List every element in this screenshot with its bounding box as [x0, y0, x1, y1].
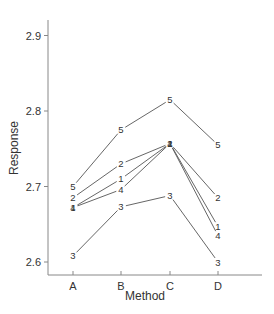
line-chart: 2.62.72.82.9 ABCD Method Response 555522…: [0, 0, 274, 314]
point-label: 2: [118, 158, 123, 169]
series-segment: [173, 147, 214, 194]
series-segment: [174, 103, 215, 141]
y-tick-label: 2.6: [26, 256, 41, 268]
point-label: 4: [167, 138, 172, 149]
point-label: 3: [167, 190, 172, 201]
series-segment: [125, 146, 166, 176]
y-axis-label: Response: [7, 121, 21, 175]
series-segment: [173, 200, 215, 258]
series-segment: [125, 102, 165, 127]
x-tick-label: A: [69, 280, 77, 292]
point-label: 3: [118, 201, 123, 212]
point-label: 5: [118, 124, 123, 135]
point-label: 5: [167, 94, 172, 105]
y-tick-label: 2.9: [26, 30, 41, 42]
point-label: 4: [118, 184, 123, 195]
series-5: 5555: [70, 94, 220, 192]
series-1: 1111: [70, 138, 220, 232]
series-segment: [172, 148, 215, 231]
y-tick-label: 2.8: [26, 105, 41, 117]
x-tick-label: C: [166, 280, 174, 292]
x-axis-label: Method: [125, 289, 165, 303]
point-label: 5: [215, 139, 220, 150]
series-segment: [173, 148, 216, 222]
point-label: 1: [118, 173, 123, 184]
series-segment: [76, 210, 117, 252]
point-label: 5: [70, 181, 75, 192]
point-label: 4: [70, 202, 75, 213]
point-label: 3: [215, 257, 220, 268]
series-segment: [126, 197, 165, 206]
series-segment: [125, 147, 167, 186]
series-2: 2222: [70, 138, 220, 203]
point-label: 2: [215, 192, 220, 203]
y-axis: 2.62.72.82.9: [26, 20, 48, 275]
series-segment: [76, 134, 118, 183]
x-tick-label: B: [117, 280, 124, 292]
series-group: 55552222111144443333: [70, 94, 220, 267]
series-3: 3333: [70, 190, 220, 267]
series-segment: [77, 167, 117, 195]
point-label: 3: [70, 250, 75, 261]
x-tick-label: D: [214, 280, 222, 292]
point-label: 4: [215, 230, 220, 241]
y-tick-label: 2.7: [26, 181, 41, 193]
